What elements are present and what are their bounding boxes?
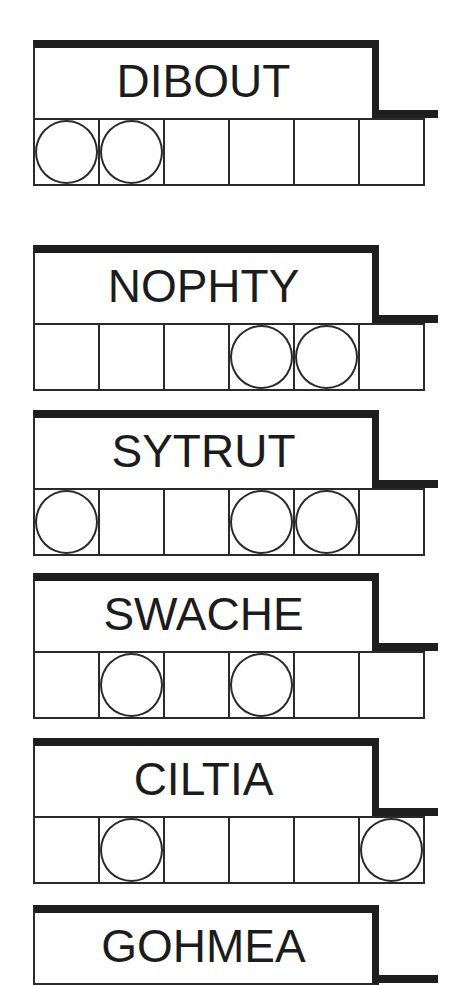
circle-marker-icon [360,818,423,882]
circle-marker-icon [230,325,293,389]
letter-tile[interactable] [228,488,295,556]
answer-tiles [33,651,425,719]
circle-marker-icon [230,653,293,717]
letter-tile[interactable] [98,816,165,884]
letter-tile[interactable] [98,651,165,719]
letter-tile[interactable] [293,118,360,186]
letter-tile[interactable] [358,816,425,884]
letter-tile[interactable] [163,651,230,719]
ledge [375,975,438,983]
circle-marker-icon [230,490,293,554]
letter-tile[interactable] [163,816,230,884]
circle-marker-icon [100,818,163,882]
ledge [375,315,438,323]
letter-tile[interactable] [33,651,100,719]
top-cropped-text [0,0,475,14]
scrambled-word-box: SWACHE [33,573,379,653]
letter-tile[interactable] [358,488,425,556]
scrambled-word: GOHMEA [101,923,305,969]
letter-tile[interactable] [358,651,425,719]
letter-tile[interactable] [163,118,230,186]
ledge [375,643,438,651]
scrambled-word: CILTIA [134,756,274,802]
letter-tile[interactable] [358,118,425,186]
answer-tiles [33,118,425,186]
letter-tile[interactable] [33,118,100,186]
answer-tiles [33,323,425,391]
letter-tile[interactable] [293,323,360,391]
letter-tile[interactable] [33,816,100,884]
scrambled-word-box: CILTIA [33,738,379,818]
letter-tile[interactable] [98,488,165,556]
circle-marker-icon [295,325,358,389]
ledge [375,480,438,488]
scrambled-word-box: SYTRUT [33,410,379,490]
letter-tile[interactable] [228,323,295,391]
letter-tile[interactable] [293,816,360,884]
scrambled-word-box: DIBOUT [33,40,379,120]
letter-tile[interactable] [98,323,165,391]
scrambled-word: SYTRUT [112,428,296,474]
scrambled-word: NOPHTY [108,263,300,309]
scrambled-word-box: NOPHTY [33,245,379,325]
letter-tile[interactable] [228,816,295,884]
letter-tile[interactable] [228,651,295,719]
circle-marker-icon [295,490,358,554]
letter-tile[interactable] [33,488,100,556]
letter-tile[interactable] [293,488,360,556]
letter-tile[interactable] [163,488,230,556]
letter-tile[interactable] [98,118,165,186]
circle-marker-icon [100,653,163,717]
ledge [375,808,438,816]
letter-tile[interactable] [358,323,425,391]
scrambled-word: SWACHE [103,591,303,637]
circle-marker-icon [100,120,163,184]
letter-tile[interactable] [33,323,100,391]
letter-tile[interactable] [163,323,230,391]
ledge [375,110,438,118]
answer-tiles [33,816,425,884]
circle-marker-icon [35,120,98,184]
circle-marker-icon [35,490,98,554]
letter-tile[interactable] [228,118,295,186]
letter-tile[interactable] [293,651,360,719]
scrambled-word-box: GOHMEA [33,905,379,985]
scrambled-word: DIBOUT [117,58,291,104]
answer-tiles [33,488,425,556]
